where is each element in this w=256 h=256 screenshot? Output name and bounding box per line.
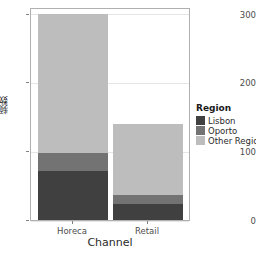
plot-panel	[30, 8, 190, 221]
legend-label-other-region: Other Region	[208, 137, 256, 146]
bar-retail[interactable]	[113, 124, 183, 220]
legend: Region Lisbon Oporto Other Region	[196, 104, 256, 146]
y-tick-label-0: 0	[230, 217, 256, 226]
bar-segment-horeca-lisbon[interactable]	[38, 171, 108, 220]
chart-figure: 300 200 100 0 频数 Horeca Retail Channel R…	[0, 0, 256, 256]
legend-item-oporto[interactable]: Oporto	[196, 126, 256, 136]
bar-segment-retail-lisbon[interactable]	[113, 204, 183, 220]
x-tick-label-retail: Retail	[122, 226, 172, 236]
gridline-0	[31, 221, 189, 222]
bar-horeca[interactable]	[38, 14, 108, 220]
legend-item-other-region[interactable]: Other Region	[196, 136, 256, 146]
y-tick-label-100: 100	[230, 148, 256, 157]
bar-segment-retail-oporto[interactable]	[113, 195, 183, 204]
legend-swatch-lisbon	[196, 116, 205, 125]
legend-item-lisbon[interactable]: Lisbon	[196, 116, 256, 126]
x-tick-mark-retail	[147, 221, 148, 224]
bar-segment-horeca-other-region[interactable]	[38, 14, 108, 153]
legend-swatch-other-region	[196, 136, 205, 145]
y-tick-mark-200	[26, 82, 29, 83]
legend-label-oporto: Oporto	[208, 127, 237, 136]
y-tick-mark-100	[26, 151, 29, 152]
x-tick-mark-horeca	[72, 221, 73, 224]
x-axis-title: Channel	[30, 236, 190, 249]
legend-title: Region	[196, 104, 256, 114]
legend-swatch-oporto	[196, 126, 205, 135]
y-axis-title: 频数	[0, 96, 21, 114]
y-tick-label-300: 300	[230, 11, 256, 20]
y-tick-mark-300	[26, 14, 29, 15]
y-tick-label-200: 200	[230, 79, 256, 88]
bar-segment-horeca-oporto[interactable]	[38, 153, 108, 171]
x-tick-label-horeca: Horeca	[47, 226, 97, 236]
y-tick-mark-0	[26, 220, 29, 221]
bar-segment-retail-other-region[interactable]	[113, 124, 183, 195]
legend-label-lisbon: Lisbon	[208, 117, 236, 126]
